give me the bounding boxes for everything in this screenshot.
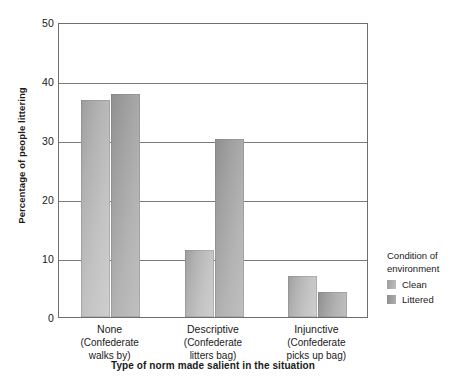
bar-descriptive-clean	[185, 250, 214, 317]
legend: Condition of environment Clean Littered	[387, 250, 471, 305]
bar-none-clean	[81, 100, 110, 317]
bar-chart: Percentage of people littering 010203040…	[0, 0, 471, 389]
bar-none-littered	[111, 94, 140, 317]
plot-area	[58, 23, 368, 318]
y-axis-tick-labels: 01020304050	[28, 0, 54, 389]
x-axis-group-none: None(Confederatewalks by)	[58, 322, 161, 362]
legend-label-clean: Clean	[402, 279, 427, 290]
y-axis-tick-0: 0	[28, 313, 54, 323]
y-axis-tick-10: 10	[28, 254, 54, 264]
y-axis-tick-50: 50	[28, 18, 54, 28]
x-axis-label-main: Descriptive	[161, 322, 264, 336]
x-axis-group-injunctive: Injunctive(Confederatepicks up bag)	[265, 322, 368, 362]
x-axis-label-sub-1: (Confederate	[265, 336, 368, 349]
legend-title-line-1: Condition of	[387, 250, 471, 263]
x-axis-label-sub-1: (Confederate	[58, 336, 161, 349]
x-axis-label-main: None	[58, 322, 161, 336]
bar-injunctive-clean	[288, 276, 317, 317]
legend-label-littered: Littered	[402, 294, 434, 305]
legend-item-littered: Littered	[387, 294, 471, 305]
bar-injunctive-littered	[318, 292, 347, 317]
x-axis-label-sub-1: (Confederate	[161, 336, 264, 349]
legend-item-clean: Clean	[387, 279, 471, 290]
x-axis-label-main: Injunctive	[265, 322, 368, 336]
legend-swatch-littered-icon	[387, 295, 396, 304]
legend-title-line-2: environment	[387, 263, 471, 276]
y-axis-tick-40: 40	[28, 77, 54, 87]
x-axis-title: Type of norm made salient in the situati…	[0, 360, 426, 371]
bar-descriptive-littered	[215, 139, 244, 317]
x-axis-group-descriptive: Descriptive(Confederatelitters bag)	[161, 322, 264, 362]
x-axis-category-labels: None(Confederatewalks by)Descriptive(Con…	[58, 322, 368, 384]
legend-title: Condition of environment	[387, 250, 471, 275]
y-axis-tick-30: 30	[28, 136, 54, 146]
y-axis-tick-20: 20	[28, 195, 54, 205]
y-axis-title: Percentage of people littering	[16, 76, 27, 236]
bars-layer	[59, 24, 367, 317]
legend-swatch-clean-icon	[387, 280, 396, 289]
